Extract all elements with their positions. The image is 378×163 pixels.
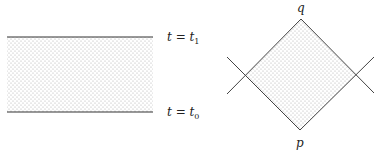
label-t-equals-t1: t = t1 [167, 30, 199, 46]
vertex-label-q: q [297, 1, 305, 15]
time-slab-figure: t = t1 t = t0 [7, 30, 199, 121]
causal-diamond-figure: q p [227, 1, 374, 150]
vertex-label-p: p [296, 136, 304, 150]
diamond-region [245, 19, 356, 130]
slab-region [7, 37, 153, 112]
label-t-equals-t0: t = t0 [167, 105, 199, 121]
diagram-canvas: t = t1 t = t0 q p [0, 0, 378, 163]
